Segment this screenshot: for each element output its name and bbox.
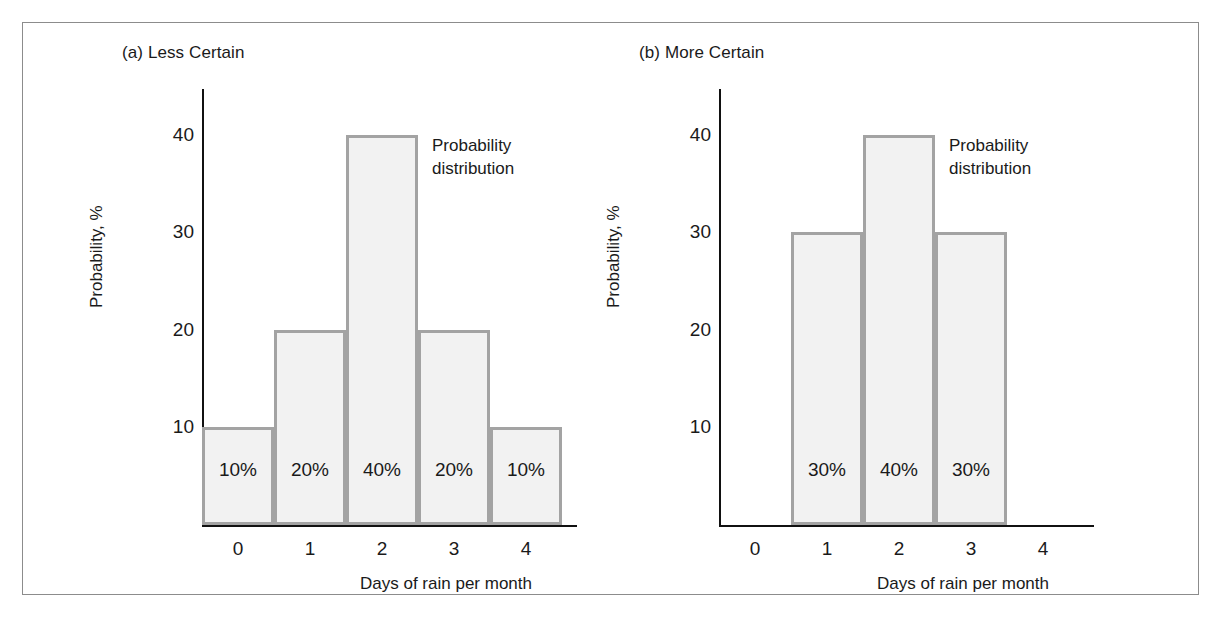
panel-b-y-tick-30: 30 [675, 222, 711, 241]
panel-b-y-tick-10: 10 [675, 417, 711, 436]
panel-a-distribution-annotation: Probability distribution [432, 135, 514, 181]
panel-a-y-axis-title: Probability, % [87, 205, 107, 308]
panel-b-y-tick-40: 40 [675, 125, 711, 144]
panel-a-bar-1 [274, 330, 346, 525]
panel-a-bar-label-1: 20% [274, 460, 346, 479]
panel-b-bar-3 [935, 232, 1007, 525]
panel-b-distribution-annotation: Probability distribution [949, 135, 1031, 181]
panel-a-x-tick-0: 0 [218, 539, 258, 558]
panel-b-bar-label-3: 30% [935, 460, 1007, 479]
panel-a-bar-label-0: 10% [202, 460, 274, 479]
panel-a-y-tick-40: 40 [158, 125, 194, 144]
panel-a-x-axis-line [202, 525, 577, 527]
panel-b-bar-1 [791, 232, 863, 525]
panel-a-x-tick-2: 2 [362, 539, 402, 558]
panel-b-bar-label-1: 30% [791, 460, 863, 479]
panel-a-y-tick-30: 30 [158, 222, 194, 241]
panel-b-plot-area: Probability, % 40 30 20 10 30% 40% 30% 0… [540, 23, 1100, 596]
panel-b-bar-label-2: 40% [863, 460, 935, 479]
chart-panel-b: (b) More Certain Probability, % 40 30 20… [540, 23, 1100, 596]
panel-b-x-tick-4: 4 [1023, 539, 1063, 558]
panel-a-bar-label-3: 20% [418, 460, 490, 479]
chart-panel-a: (a) Less Certain Probability, % 40 30 20… [23, 23, 583, 596]
panel-a-x-axis-title: Days of rain per month [360, 574, 532, 594]
panel-b-x-tick-0: 0 [735, 539, 775, 558]
panel-b-y-tick-20: 20 [675, 320, 711, 339]
panel-b-x-axis-line [719, 525, 1094, 527]
panel-b-y-axis-title: Probability, % [604, 205, 624, 308]
panel-b-x-tick-3: 3 [951, 539, 991, 558]
panel-b-x-tick-2: 2 [879, 539, 919, 558]
figure-frame: (a) Less Certain Probability, % 40 30 20… [22, 22, 1199, 595]
panel-a-plot-area: Probability, % 40 30 20 10 10% 20% 40% 2… [23, 23, 583, 596]
panel-b-x-axis-title: Days of rain per month [877, 574, 1049, 594]
panel-a-x-tick-1: 1 [290, 539, 330, 558]
panel-a-bar-label-2: 40% [346, 460, 418, 479]
panel-a-y-tick-20: 20 [158, 320, 194, 339]
panel-a-x-tick-3: 3 [434, 539, 474, 558]
panel-a-bar-3 [418, 330, 490, 525]
panel-b-x-tick-1: 1 [807, 539, 847, 558]
panel-a-y-tick-10: 10 [158, 417, 194, 436]
panel-b-y-axis-line [719, 89, 721, 525]
